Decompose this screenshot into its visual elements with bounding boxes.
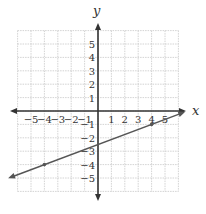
coordinate-plane: −5−4−3−2−11234554321−1−2−3−4−5 x y: [0, 0, 206, 214]
chart-svg: −5−4−3−2−11234554321−1−2−3−4−5 x y: [0, 0, 206, 214]
y-tick-label: 5: [89, 39, 95, 50]
x-axis-label: x: [192, 103, 200, 118]
y-tick-label: 2: [89, 79, 95, 90]
x-tick-label: 3: [135, 114, 141, 125]
line-arrow-icon: [8, 173, 16, 179]
y-tick-label: −4: [80, 160, 95, 171]
marked-point: [150, 123, 154, 127]
y-tick-label: 4: [89, 52, 95, 63]
y-tick-label: −2: [80, 133, 95, 144]
y-axis-down-arrow-icon: [95, 194, 101, 201]
x-tick-label: 1: [108, 114, 114, 125]
y-tick-label: −5: [80, 173, 95, 184]
y-tick-label: 3: [89, 66, 95, 77]
marked-point: [43, 163, 47, 167]
y-axis-up-arrow-icon: [95, 23, 101, 30]
axes: [10, 23, 186, 201]
x-tick-label: 2: [122, 114, 128, 125]
x-axis-left-arrow-icon: [10, 108, 17, 114]
y-axis-label: y: [92, 3, 101, 18]
y-tick-label: 1: [89, 93, 95, 104]
y-tick-label: −1: [80, 119, 95, 130]
